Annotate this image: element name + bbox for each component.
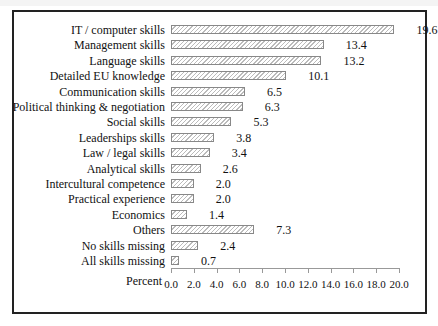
bar-row: All skills missing0.7 (14, 253, 414, 269)
value-label: 13.4 (346, 37, 367, 53)
bar (171, 179, 194, 188)
value-label: 13.2 (343, 53, 364, 69)
bar-row: Law / legal skills3.4 (14, 145, 414, 161)
bar-row: Political thinking & negotiation6.3 (14, 99, 414, 115)
bar (171, 164, 201, 173)
x-tick-label: 4.0 (210, 278, 224, 290)
value-label: 0.7 (201, 253, 216, 269)
value-label: 2.4 (220, 238, 235, 254)
chart-frame: IT / computer skills19.6Management skill… (12, 10, 427, 314)
category-label: Economics (0, 207, 165, 223)
bar (171, 256, 179, 265)
x-tick (308, 268, 309, 273)
x-tick (239, 268, 240, 273)
bar-row: Management skills13.4 (14, 37, 414, 53)
bar (171, 210, 187, 219)
bar (171, 194, 194, 203)
bar-row: Social skills5.3 (14, 114, 414, 130)
x-tick (217, 268, 218, 273)
value-label: 3.8 (236, 130, 251, 146)
category-label: Detailed EU knowledge (0, 68, 165, 84)
bar-row: IT / computer skills19.6 (14, 22, 414, 38)
bar (171, 117, 231, 126)
category-label: All skills missing (0, 253, 165, 269)
category-label: Analytical skills (0, 161, 165, 177)
x-axis-label: Percent (126, 274, 162, 289)
bar (171, 133, 214, 142)
bar (171, 241, 198, 250)
category-label: Language skills (0, 53, 165, 69)
value-label: 7.3 (276, 222, 291, 238)
category-label: Management skills (0, 37, 165, 53)
category-label: Leaderships skills (0, 130, 165, 146)
bar (171, 225, 254, 234)
x-tick-label: 20.0 (389, 278, 408, 290)
bar (171, 148, 210, 157)
x-tick (376, 268, 377, 273)
top-strip (0, 0, 438, 6)
x-tick (399, 268, 400, 273)
bar-row: Others7.3 (14, 222, 414, 238)
category-label: Social skills (0, 114, 165, 130)
category-label: Practical experience (0, 191, 165, 207)
x-tick-label: 10.0 (275, 278, 294, 290)
x-tick-label: 16.0 (344, 278, 363, 290)
x-tick (171, 268, 172, 273)
bar (171, 40, 324, 49)
bar (171, 71, 286, 80)
value-label: 19.6 (416, 22, 437, 38)
category-label: No skills missing (0, 238, 165, 254)
x-tick (194, 268, 195, 273)
value-label: 2.0 (216, 176, 231, 192)
bar (171, 25, 394, 34)
x-tick-label: 8.0 (255, 278, 269, 290)
category-label: Intercultural competence (0, 176, 165, 192)
value-label: 3.4 (232, 145, 247, 161)
value-label: 2.0 (216, 191, 231, 207)
value-label: 5.3 (253, 114, 268, 130)
bar-row: Language skills13.2 (14, 53, 414, 69)
value-label: 1.4 (209, 207, 224, 223)
bar-row: Intercultural competence2.0 (14, 176, 414, 192)
category-label: Law / legal skills (0, 145, 165, 161)
bar-row: Leaderships skills3.8 (14, 130, 414, 146)
x-tick (331, 268, 332, 273)
bar-row: Analytical skills2.6 (14, 161, 414, 177)
bar-row: No skills missing2.4 (14, 238, 414, 254)
bar (171, 56, 321, 65)
bar-row: Practical experience2.0 (14, 191, 414, 207)
value-label: 6.5 (267, 84, 282, 100)
bar-row: Detailed EU knowledge10.1 (14, 68, 414, 84)
bar-row: Economics1.4 (14, 207, 414, 223)
category-label: Others (0, 222, 165, 238)
category-label: IT / computer skills (0, 22, 165, 38)
category-label: Communication skills (0, 84, 165, 100)
x-tick (262, 268, 263, 273)
x-tick-label: 12.0 (298, 278, 317, 290)
x-tick-label: 14.0 (321, 278, 340, 290)
x-tick-label: 2.0 (187, 278, 201, 290)
x-tick-label: 0.0 (164, 278, 178, 290)
value-label: 2.6 (223, 161, 238, 177)
x-tick-label: 18.0 (367, 278, 386, 290)
value-label: 6.3 (265, 99, 280, 115)
category-label: Political thinking & negotiation (0, 99, 165, 115)
x-tick (285, 268, 286, 273)
bar-row: Communication skills6.5 (14, 84, 414, 100)
x-tick (353, 268, 354, 273)
value-label: 10.1 (308, 68, 329, 84)
x-tick-label: 6.0 (233, 278, 247, 290)
bar (171, 102, 243, 111)
bar (171, 87, 245, 96)
